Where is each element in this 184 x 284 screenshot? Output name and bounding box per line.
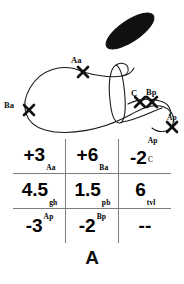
value-matrix-table: +3Aa +6Ba -2ApC 4.5gh 1.5pb [13, 139, 171, 243]
cell-value-r2c1: 4.5gh [22, 180, 57, 202]
table-cell-r1c3: -2ApC [118, 139, 171, 174]
diagram-label-c: C [131, 89, 137, 98]
diagram-svg [0, 0, 184, 140]
cell-value-r3c2: -2Bp [79, 216, 105, 235]
cell-sup-r3c2: Bp [97, 212, 107, 221]
cell-sub-r2c3: tvl [147, 198, 156, 207]
cell-sub-r2c2: pb [102, 198, 111, 207]
cell-main-r2c3: 6 [135, 179, 146, 200]
cell-sup-r1c3: Ap [148, 137, 158, 145]
marker-ap-x [167, 122, 177, 132]
cell-main-r3c2: -2 [79, 215, 96, 236]
table-cell-r1c1: +3Aa [13, 139, 66, 174]
cell-value-r1c2: +6Ba [77, 145, 108, 167]
marker-c-x [135, 97, 145, 107]
cell-main-r3c3: -- [139, 215, 152, 236]
marker-aa-x [78, 67, 88, 77]
diagram-label-aa: Aa [71, 56, 82, 65]
diagram-label-bp: Bp [146, 88, 157, 97]
cell-value-r3c1: -3Ap [26, 216, 53, 235]
cell-sub-r2c1: gh [49, 198, 57, 207]
table-cell-r2c2: 1.5pb [66, 174, 119, 209]
figure-caption: A [0, 248, 184, 267]
right-tail-curve [122, 108, 162, 122]
diagram-label-ap: Ap [167, 114, 177, 122]
cell-value-r2c3: 6tvl [135, 180, 155, 202]
cell-main-r1c1: +3 [23, 144, 45, 165]
cell-value-r3c3: -- [139, 216, 152, 235]
table-panel: +3Aa +6Ba -2ApC 4.5gh 1.5pb [0, 139, 184, 247]
diagram-panel: Aa Ba C Bp Ap [0, 0, 184, 140]
cell-value-r2c2: 1.5pb [74, 180, 109, 202]
table-cell-r3c2: -2Bp [66, 209, 119, 244]
cell-main-r1c2: +6 [77, 144, 99, 165]
cell-supsub-r1c3: ApC [147, 145, 160, 164]
cell-sub-r1c3: C [148, 156, 153, 164]
cell-main-r2c2: 1.5 [74, 179, 100, 200]
table-cell-r1c2: +6Ba [66, 139, 119, 174]
table-cell-r2c1: 4.5gh [13, 174, 66, 209]
dark-ellipse-shape [101, 7, 159, 56]
table-row: +3Aa +6Ba -2ApC [13, 139, 171, 174]
upper-arc-curve [83, 68, 134, 77]
vertical-lens-curve [109, 65, 125, 123]
cell-value-r1c1: +3Aa [23, 145, 54, 167]
cell-sup-r3c1: Ap [44, 212, 54, 221]
table-cell-r2c3: 6tvl [118, 174, 171, 209]
table-row: 4.5gh 1.5pb 6tvl [13, 174, 171, 209]
cell-main-r1c3: -2 [130, 147, 147, 168]
cell-sub-r1c2: Ba [99, 163, 108, 172]
cell-main-r3c1: -3 [26, 215, 43, 236]
diagram-label-ba: Ba [4, 101, 14, 110]
figure-container: Aa Ba C Bp Ap +3Aa +6Ba -2ApC [0, 0, 184, 284]
table-cell-r3c1: -3Ap [13, 209, 66, 244]
table-cell-r3c3: -- [118, 209, 171, 244]
cell-value-r1c3: -2ApC [130, 145, 160, 167]
cell-main-r2c1: 4.5 [22, 179, 48, 200]
cell-sub-r1c1: Aa [46, 163, 56, 172]
table-row: -3Ap -2Bp -- [13, 209, 171, 244]
